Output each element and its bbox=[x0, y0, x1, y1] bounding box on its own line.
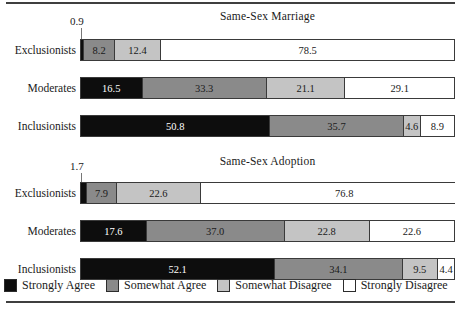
bar-segment: 78.5 bbox=[161, 40, 454, 60]
stacked-bar: 0.98.212.478.5 bbox=[80, 39, 455, 61]
legend-item[interactable]: Somewhat Agree bbox=[106, 279, 206, 292]
legend-item[interactable]: Strongly Disagree bbox=[343, 279, 448, 292]
legend-item-label: Somewhat Disagree bbox=[235, 279, 331, 291]
bar-segment: 12.4 bbox=[115, 40, 161, 60]
bar-segment: 33.3 bbox=[143, 78, 267, 98]
bar-segment-value: 22.6 bbox=[149, 188, 167, 199]
bar-segment: 37.0 bbox=[147, 221, 285, 241]
bar-segment-value: 9.5 bbox=[413, 264, 426, 275]
callout-stem-marriage bbox=[81, 28, 82, 39]
bar-segment: 16.5 bbox=[81, 78, 143, 98]
legend-item[interactable]: Strongly Agree bbox=[4, 279, 95, 292]
bar-segment-value: 78.5 bbox=[298, 45, 316, 56]
bar-row: Exclusionists0.98.212.478.5 bbox=[0, 39, 461, 61]
bar-segment-value: 7.9 bbox=[95, 188, 108, 199]
bar-segment-value: 50.8 bbox=[166, 121, 184, 132]
bar-segment-value: 17.6 bbox=[104, 226, 122, 237]
bar-segment: 8.9 bbox=[421, 116, 454, 136]
stacked-bar: 16.533.321.129.1 bbox=[80, 77, 455, 99]
stacked-bar: 1.77.922.676.8 bbox=[80, 182, 455, 204]
callout-label-adoption: 1.7 bbox=[70, 160, 84, 172]
callout-label-marriage: 0.9 bbox=[70, 15, 84, 27]
stacked-bar: 17.637.022.822.6 bbox=[80, 220, 455, 242]
panel-same-sex-adoption: Same-Sex Adoption 1.7 Exclusionists1.77.… bbox=[0, 155, 461, 273]
bar-segment-value: 35.7 bbox=[327, 121, 345, 132]
panel-title-adoption: Same-Sex Adoption bbox=[80, 155, 455, 167]
bar-row-label: Moderates bbox=[0, 82, 76, 94]
legend-item[interactable]: Somewhat Disagree bbox=[217, 279, 331, 292]
bar-segment-value: 34.1 bbox=[329, 264, 347, 275]
bar-segment-value: 4.6 bbox=[405, 121, 418, 132]
legend-item-label: Somewhat Agree bbox=[124, 279, 206, 291]
bar-row: Moderates16.533.321.129.1 bbox=[0, 77, 461, 99]
bar-segment: 29.1 bbox=[345, 78, 454, 98]
stacked-bar-figure: Same-Sex Marriage 0.9 Exclusionists0.98.… bbox=[0, 0, 461, 313]
bar-segment-value: 22.6 bbox=[403, 226, 421, 237]
bar-segment: 4.6 bbox=[404, 116, 421, 136]
bar-segment: 50.8 bbox=[81, 116, 270, 136]
legend-swatch-icon bbox=[343, 279, 356, 292]
bar-segment-value: 37.0 bbox=[206, 226, 224, 237]
bar-segment: 8.2 bbox=[84, 40, 115, 60]
bar-row-label: Exclusionists bbox=[0, 44, 76, 56]
figure-top-rule bbox=[6, 2, 455, 4]
legend-swatch-icon bbox=[4, 279, 17, 292]
bar-segment-value: 33.3 bbox=[195, 83, 213, 94]
bar-segment-value: 16.5 bbox=[102, 83, 120, 94]
bar-row-label: Inclusionists bbox=[0, 263, 76, 275]
bar-segment-value: 12.4 bbox=[128, 45, 146, 56]
legend-item-label: Strongly Disagree bbox=[361, 279, 448, 291]
bar-segment-value: 4.4 bbox=[440, 264, 453, 275]
panel-same-sex-marriage: Same-Sex Marriage 0.9 Exclusionists0.98.… bbox=[0, 10, 461, 140]
bar-segment: 22.6 bbox=[370, 221, 454, 241]
bar-segment-value: 8.9 bbox=[431, 121, 444, 132]
bar-segment: 76.8 bbox=[201, 183, 461, 203]
bar-segment: 22.8 bbox=[285, 221, 370, 241]
bar-row-label: Exclusionists bbox=[0, 187, 76, 199]
bar-segment: 21.1 bbox=[267, 78, 346, 98]
bar-segment-value: 22.8 bbox=[317, 226, 335, 237]
bar-row: Inclusionists50.835.74.68.9 bbox=[0, 115, 461, 137]
bar-segment-value: 8.2 bbox=[93, 45, 106, 56]
bar-row-label: Inclusionists bbox=[0, 120, 76, 132]
bar-segment: 22.6 bbox=[117, 183, 201, 203]
bar-segment-value: 52.1 bbox=[168, 264, 186, 275]
bar-segment-value: 21.1 bbox=[296, 83, 314, 94]
bar-segment: 35.7 bbox=[270, 116, 403, 136]
bar-segment: 7.9 bbox=[87, 183, 116, 203]
chart-legend: Strongly AgreeSomewhat AgreeSomewhat Dis… bbox=[4, 275, 461, 295]
stacked-bar: 50.835.74.68.9 bbox=[80, 115, 455, 137]
bar-segment: 17.6 bbox=[81, 221, 147, 241]
bar-segment-value: 29.1 bbox=[391, 83, 409, 94]
legend-swatch-icon bbox=[217, 279, 230, 292]
bar-segment-value: 76.8 bbox=[335, 188, 353, 199]
bar-row-label: Moderates bbox=[0, 225, 76, 237]
legend-item-label: Strongly Agree bbox=[22, 279, 95, 291]
panel-title-marriage: Same-Sex Marriage bbox=[80, 10, 455, 22]
figure-bottom-rule bbox=[6, 301, 455, 303]
bar-row: Moderates17.637.022.822.6 bbox=[0, 220, 461, 242]
bar-row: Exclusionists1.77.922.676.8 bbox=[0, 182, 461, 204]
legend-swatch-icon bbox=[106, 279, 119, 292]
